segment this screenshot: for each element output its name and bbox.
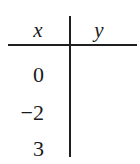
column-divider-line xyxy=(69,16,71,157)
header-divider-line xyxy=(8,44,137,46)
column-header-y: y xyxy=(84,19,114,41)
table-row-x-value: 0 xyxy=(4,64,44,86)
table-row-x-value: 3 xyxy=(4,138,44,160)
column-header-x: x xyxy=(23,19,53,41)
table-row-x-value: −2 xyxy=(4,102,44,124)
xy-value-table: x y 0 −2 3 xyxy=(0,0,140,164)
